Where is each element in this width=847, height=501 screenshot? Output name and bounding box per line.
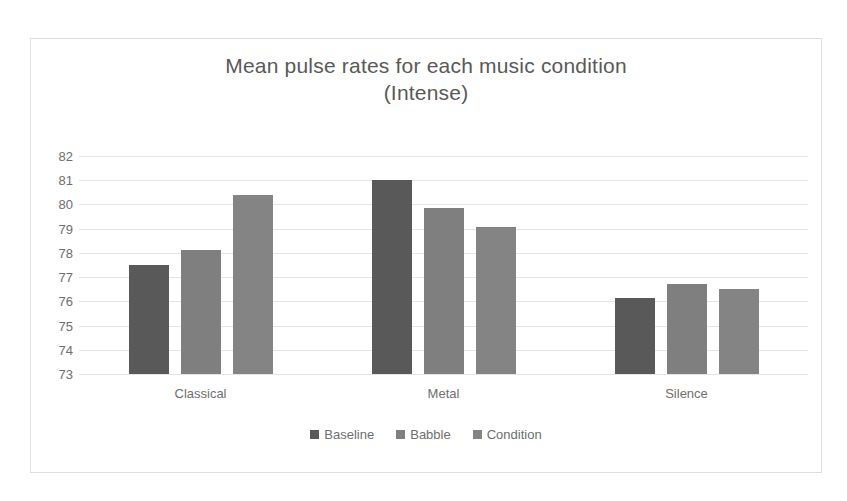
bar-metal-condition xyxy=(476,227,516,374)
legend-swatch-icon xyxy=(473,430,482,439)
legend-label: Baseline xyxy=(324,427,374,442)
y-axis-tick-label: 74 xyxy=(59,342,73,357)
chart-title-line1: Mean pulse rates for each music conditio… xyxy=(225,54,627,77)
bar-classical-babble xyxy=(181,250,221,374)
x-axis-category-label: Classical xyxy=(174,386,226,401)
legend-swatch-icon xyxy=(396,430,405,439)
bar-silence-baseline xyxy=(615,298,655,374)
chart-container: Mean pulse rates for each music conditio… xyxy=(30,38,822,473)
bar-silence-babble xyxy=(667,284,707,374)
x-axis-category-label: Silence xyxy=(665,386,708,401)
y-axis-tick-label: 77 xyxy=(59,270,73,285)
y-axis-tick-label: 73 xyxy=(59,367,73,382)
y-axis-tick-label: 79 xyxy=(59,221,73,236)
bars-layer xyxy=(79,156,808,374)
legend-label: Babble xyxy=(410,427,450,442)
bar-silence-condition xyxy=(719,289,759,374)
bar-metal-baseline xyxy=(372,180,412,374)
bar-classical-baseline xyxy=(129,265,169,374)
y-axis-tick-label: 82 xyxy=(59,149,73,164)
y-axis-tick-label: 80 xyxy=(59,197,73,212)
chart-title-line2: (Intense) xyxy=(31,80,821,107)
chart-legend: BaselineBabbleCondition xyxy=(31,427,821,442)
plot-area: 82818079787776757473 ClassicalMetalSilen… xyxy=(79,156,808,374)
gridline xyxy=(79,374,808,375)
bar-metal-babble xyxy=(424,208,464,374)
x-axis-category-label: Metal xyxy=(428,386,460,401)
y-axis-tick-label: 76 xyxy=(59,294,73,309)
chart-title: Mean pulse rates for each music conditio… xyxy=(31,53,821,107)
y-axis-tick-label: 78 xyxy=(59,245,73,260)
legend-swatch-icon xyxy=(310,430,319,439)
y-axis-tick-label: 81 xyxy=(59,173,73,188)
legend-item-babble[interactable]: Babble xyxy=(396,427,450,442)
legend-item-baseline[interactable]: Baseline xyxy=(310,427,374,442)
legend-label: Condition xyxy=(487,427,542,442)
y-axis-tick-label: 75 xyxy=(59,318,73,333)
bar-classical-condition xyxy=(233,195,273,374)
legend-item-condition[interactable]: Condition xyxy=(473,427,542,442)
